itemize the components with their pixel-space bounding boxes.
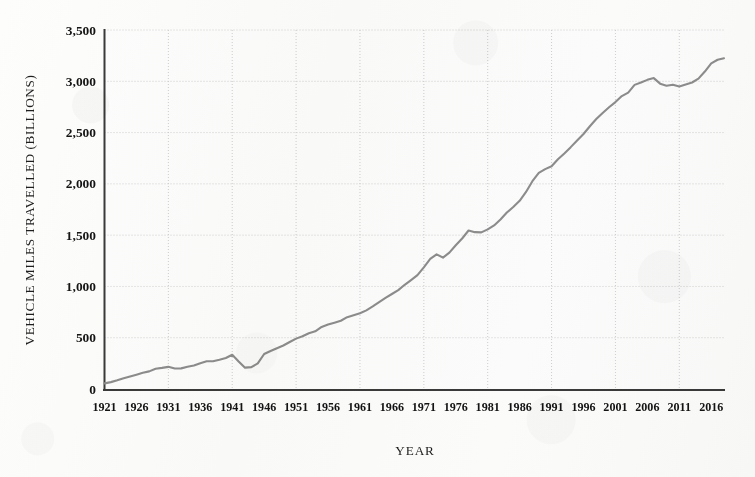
y-tick-label: 2,500: [66, 125, 96, 140]
y-axis-title-text: VEHICLE MILES TRAVELLED (BILLIONS): [22, 75, 37, 346]
y-tick-label: 3,500: [66, 23, 96, 38]
x-axis-title-text: YEAR: [395, 443, 435, 458]
x-tick-label: 1941: [220, 400, 244, 414]
y-tick-label: 500: [76, 330, 96, 345]
x-tick-label: 1986: [508, 400, 532, 414]
chart-container: 05001,0001,5002,0002,5003,0003,500 19211…: [0, 0, 755, 477]
plot-background: [104, 30, 724, 389]
x-tick-label: 1976: [444, 400, 468, 414]
x-tick-labels: 1921192619311936194119461951195619611966…: [92, 400, 723, 414]
x-tick-label: 1956: [316, 400, 340, 414]
line-chart: 05001,0001,5002,0002,5003,0003,500 19211…: [0, 0, 755, 477]
x-tick-label: 1971: [412, 400, 436, 414]
x-tick-label: 1996: [571, 400, 595, 414]
x-tick-label: 1951: [284, 400, 308, 414]
x-tick-label: 1936: [188, 400, 212, 414]
x-tick-label: 1981: [476, 400, 500, 414]
y-tick-labels: 05001,0001,5002,0002,5003,0003,500: [66, 23, 96, 397]
x-tick-label: 1966: [380, 400, 404, 414]
y-tick-label: 1,000: [66, 279, 96, 294]
x-tick-label: 1926: [124, 400, 148, 414]
x-tick-label: 2011: [668, 400, 692, 414]
y-tick-label: 3,000: [66, 74, 96, 89]
x-tick-label: 2016: [699, 400, 723, 414]
y-axis-title: VEHICLE MILES TRAVELLED (BILLIONS): [22, 75, 37, 346]
y-tick-label: 0: [89, 382, 96, 397]
x-tick-label: 2006: [635, 400, 659, 414]
x-tick-label: 1946: [252, 400, 276, 414]
x-tick-label: 2001: [603, 400, 627, 414]
x-tick-label: 1991: [539, 400, 563, 414]
y-tick-label: 2,000: [66, 176, 96, 191]
y-tick-label: 1,500: [66, 228, 96, 243]
x-tick-label: 1961: [348, 400, 372, 414]
x-tick-label: 1931: [156, 400, 180, 414]
x-tick-label: 1921: [92, 400, 116, 414]
